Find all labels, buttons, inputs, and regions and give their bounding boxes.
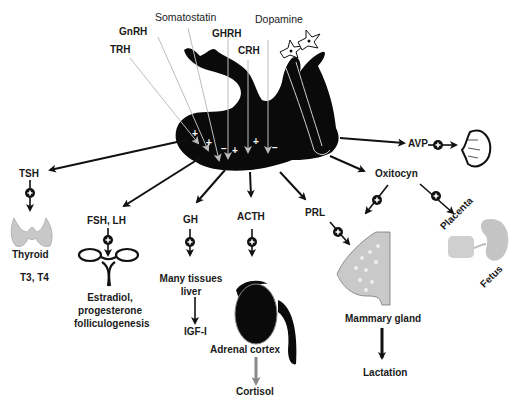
text-line: Estradiol, (74, 291, 146, 304)
thyroid-icon (11, 218, 52, 247)
effect-ghrh: + (232, 145, 238, 156)
label-dopamine: Dopamine (255, 14, 303, 25)
label-avp: AVP (408, 138, 428, 149)
label-adrenal-cortex: Adrenal cortex (210, 344, 280, 355)
label-ghrh: GHRH (212, 28, 241, 39)
label-gh: GH (183, 214, 198, 225)
effect-dopamine: − (272, 142, 278, 153)
label-cortisol: Cortisol (236, 386, 274, 397)
text-line: liver (155, 285, 227, 298)
label-gnrh: GnRH (119, 26, 147, 37)
text-line: Many tissues (155, 272, 227, 285)
label-t3-t4: T3, T4 (20, 272, 49, 283)
mammary-gland-icon (337, 232, 390, 305)
label-tsh: TSH (19, 168, 39, 179)
label-mammary-gland: Mammary gland (345, 313, 421, 324)
effect-somatostatin: − (221, 143, 227, 154)
effect-gnrh: + (206, 137, 212, 148)
label-lactation: Lactation (363, 367, 407, 378)
effect-crh: + (253, 136, 259, 147)
label-oxytocin: Oxitocyn (375, 168, 418, 179)
diagram-graphics (0, 0, 517, 401)
label-fsh-lh: FSH, LH (87, 215, 126, 226)
label-igf-1: IGF-I (184, 326, 207, 337)
label-thyroid: Thyroid (12, 249, 49, 260)
kidney-icon (462, 131, 490, 167)
pituitary-hormone-diagram: TRH GnRH Somatostatin GHRH CRH Dopamine … (0, 0, 517, 401)
label-somatostatin: Somatostatin (155, 12, 216, 23)
text-line: progesterone (74, 304, 146, 317)
label-crh: CRH (238, 45, 260, 56)
label-estradiol: Estradiol, progesterone folliculogenesis (74, 291, 146, 330)
placenta-fetus-icon (448, 219, 508, 261)
text-line: folliculogenesis (74, 317, 146, 330)
label-acth: ACTH (237, 211, 265, 222)
neuron-icon (280, 30, 320, 58)
effect-trh: + (192, 128, 198, 139)
label-prl: PRL (305, 207, 325, 218)
label-many-tissues: Many tissues liver (155, 272, 227, 298)
label-trh: TRH (110, 44, 131, 55)
